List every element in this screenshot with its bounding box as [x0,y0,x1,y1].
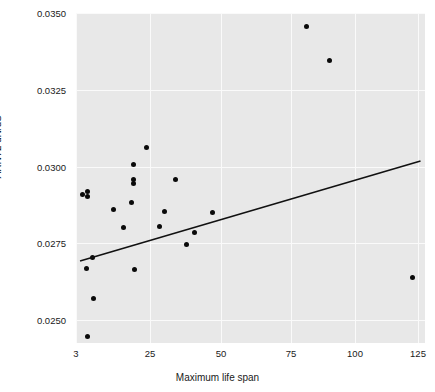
data-point [85,194,90,199]
gridline-y-1 [76,243,425,244]
y-tick-label: 0.0350 [0,8,66,19]
x-axis-title: Maximum life span [0,372,435,383]
data-point [132,267,137,272]
data-point [410,275,415,280]
data-point [85,189,90,194]
data-point [184,242,189,247]
y-tick-label: 0.0300 [0,161,66,172]
data-point [304,24,309,29]
gridline-x-2 [221,13,222,343]
x-tick-label: 25 [145,348,156,359]
data-point [327,58,332,63]
y-tick-label: 0.0325 [0,84,66,95]
x-tick-label: 125 [410,348,426,359]
data-point [157,224,162,229]
data-point [121,225,126,230]
x-tick-label: 75 [286,348,297,359]
regression-line-segment [80,161,420,261]
gridline-y-3 [76,90,425,91]
data-point [129,200,134,205]
gridline-y-0 [76,320,425,321]
gridline-x-4 [355,13,356,343]
data-point [85,334,90,339]
gridline-x-3 [291,13,292,343]
scatter-plot-figure: 0.02500.02750.03000.03250.0350 325507510… [0,0,435,392]
gridline-x-0 [76,13,77,343]
data-point [91,296,96,301]
x-tick-label: 50 [216,348,227,359]
gridline-y-4 [76,13,425,14]
regression-line [76,13,425,343]
x-tick-label: 3 [73,348,78,359]
y-tick-label: 0.0275 [0,238,66,249]
data-point [210,210,215,215]
gridline-x-1 [150,13,151,343]
data-point [131,162,136,167]
data-point [111,207,116,212]
x-tick-label: 100 [347,348,363,359]
data-point [192,230,197,235]
plot-area [76,13,425,343]
data-point [173,177,178,182]
y-tick-label: 0.0250 [0,315,66,326]
gridline-x-5 [418,13,419,343]
data-point [162,209,167,214]
gridline-y-2 [76,167,425,168]
data-point [84,266,89,271]
y-axis-title: ARNTL dN/dS [0,115,3,178]
data-point [144,145,149,150]
data-point [90,255,95,260]
data-point [131,181,136,186]
